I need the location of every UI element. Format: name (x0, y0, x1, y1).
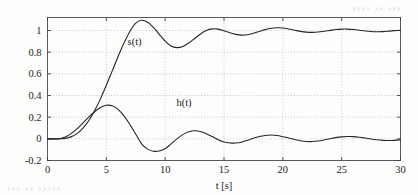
x-axis-title: t [s] (216, 180, 233, 191)
figure-canvas: ‹‹‹ ‹‹ ‹‹‹‹ ‹‹‹‹‹ ‹‹ ‹‹‹ 051015202530-0.… (0, 0, 418, 195)
y-tick-label: 0.4 (28, 90, 42, 101)
y-tick-label: -0.2 (25, 155, 42, 166)
x-tick-label: 0 (45, 164, 50, 175)
y-tick-label: 0 (36, 133, 41, 144)
y-tick-label: 1 (36, 25, 41, 36)
x-tick-label: 5 (104, 164, 109, 175)
y-tick-label: 0.2 (28, 112, 41, 123)
y-tick-label: 0.6 (28, 68, 41, 79)
text-labels: 051015202530-0.200.20.40.60.81t [s]s(t)h… (25, 25, 406, 190)
x-tick-label: 20 (278, 164, 289, 175)
curve-annotation-st: s(t) (128, 36, 143, 48)
x-tick-label: 30 (395, 164, 406, 175)
response-plot: 051015202530-0.200.20.40.60.81t [s]s(t)h… (0, 0, 418, 195)
x-tick-label: 25 (336, 164, 347, 175)
curve-annotation-ht: h(t) (176, 97, 192, 109)
y-tick-label: 0.8 (28, 47, 41, 58)
data-curves (48, 20, 401, 151)
x-tick-label: 10 (160, 164, 171, 175)
grid-layer (48, 18, 401, 161)
x-tick-label: 15 (219, 164, 230, 175)
